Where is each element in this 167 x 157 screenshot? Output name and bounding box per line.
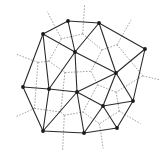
delaunay-edge xyxy=(84,128,117,133)
delaunay-voronoi-diagram xyxy=(0,0,167,157)
voronoi-edge xyxy=(99,111,119,124)
voronoi-ray xyxy=(17,108,35,116)
sites xyxy=(21,19,147,135)
delaunay-edge xyxy=(68,21,75,52)
delaunay-edge xyxy=(84,106,103,133)
delaunay-edge xyxy=(23,34,43,87)
voronoi-edge xyxy=(34,108,60,112)
voronoi-ray xyxy=(83,4,85,34)
voronoi-edge xyxy=(34,62,38,108)
delaunay-edges xyxy=(23,21,145,133)
voronoi-edge xyxy=(83,34,102,50)
voronoi-ray xyxy=(117,20,131,44)
voronoi-edge xyxy=(102,45,117,50)
delaunay-edge xyxy=(49,52,75,89)
site-point-G xyxy=(21,85,25,89)
voronoi-ray xyxy=(63,115,65,150)
voronoi-edge xyxy=(49,39,62,61)
delaunay-edge xyxy=(116,73,133,101)
delaunay-edge xyxy=(99,23,145,49)
voronoi-edge xyxy=(61,112,65,115)
site-point-B xyxy=(97,21,101,25)
site-point-M xyxy=(41,129,45,133)
delaunay-edge xyxy=(77,92,103,106)
voronoi-edge xyxy=(49,61,65,72)
delaunay-edge xyxy=(117,101,133,128)
site-point-C xyxy=(41,32,45,36)
voronoi-ray xyxy=(143,76,161,80)
delaunay-edge xyxy=(103,106,117,128)
site-point-I xyxy=(75,90,79,94)
site-point-N xyxy=(82,131,86,135)
site-point-L xyxy=(115,126,119,130)
voronoi-edge xyxy=(116,92,119,111)
site-point-D xyxy=(73,50,77,54)
site-point-H xyxy=(47,87,51,91)
voronoi-edge xyxy=(38,61,49,62)
site-point-K xyxy=(101,104,105,108)
voronoi-edge xyxy=(65,71,91,72)
voronoi-edge xyxy=(116,76,143,92)
site-point-E xyxy=(143,47,147,51)
voronoi-ray xyxy=(99,124,103,149)
voronoi-edge xyxy=(83,85,98,112)
site-point-J xyxy=(131,99,135,103)
voronoi-edge xyxy=(98,85,116,92)
delaunay-edge xyxy=(43,21,68,34)
delaunay-edge xyxy=(75,23,99,52)
voronoi-ray xyxy=(119,111,140,124)
site-point-F xyxy=(114,71,118,75)
delaunay-edge xyxy=(23,87,43,131)
voronoi-edge xyxy=(117,45,143,76)
site-point-A xyxy=(66,19,70,23)
